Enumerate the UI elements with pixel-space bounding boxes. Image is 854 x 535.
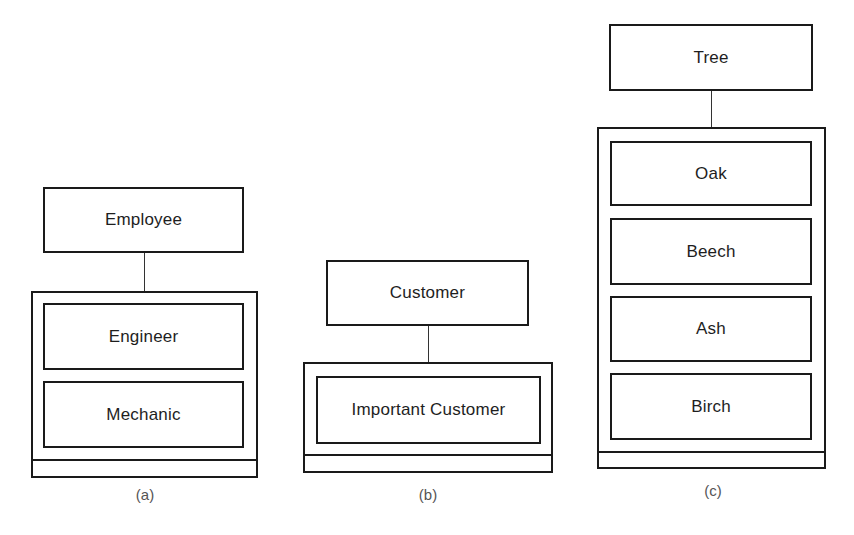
entity-label: Important Customer: [352, 400, 506, 420]
entity-label: Oak: [695, 164, 727, 184]
entity-label: Engineer: [109, 327, 179, 347]
subtype-entity-mechanic: Mechanic: [43, 381, 244, 448]
connector-line: [428, 326, 429, 363]
entity-label: Ash: [696, 319, 726, 339]
entity-label: Employee: [105, 210, 182, 230]
caption-b: (b): [419, 486, 437, 503]
caption-c: (c): [704, 482, 722, 499]
entity-label: Customer: [390, 283, 465, 303]
entity-label: Mechanic: [106, 405, 180, 425]
entity-label: Tree: [693, 48, 728, 68]
parent-entity-employee: Employee: [43, 187, 244, 253]
subtype-entity-birch: Birch: [610, 373, 812, 440]
parent-entity-customer: Customer: [326, 260, 529, 326]
subtype-entity-oak: Oak: [610, 141, 812, 206]
connector-line: [144, 253, 145, 292]
subtype-entity-ash: Ash: [610, 296, 812, 362]
subtype-entity-engineer: Engineer: [43, 303, 244, 370]
container-divider: [597, 451, 826, 453]
entity-label: Birch: [691, 397, 731, 417]
parent-entity-tree: Tree: [609, 24, 813, 91]
entity-label: Beech: [686, 242, 735, 262]
subtype-entity-important-customer: Important Customer: [316, 376, 541, 444]
caption-a: (a): [136, 486, 154, 503]
container-divider: [31, 459, 258, 461]
container-divider: [303, 454, 553, 456]
connector-line: [711, 91, 712, 128]
subtype-entity-beech: Beech: [610, 218, 812, 285]
